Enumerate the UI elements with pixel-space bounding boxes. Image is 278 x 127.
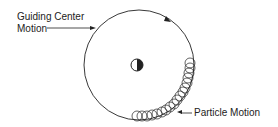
guiding-center-diagram: Guiding Center Motion Particle Motion <box>0 0 278 127</box>
particle-motion-arrowhead-icon <box>177 110 182 114</box>
center-half-circle-icon <box>131 59 143 71</box>
guiding-center-arrowhead-icon <box>90 26 96 30</box>
particle-motion-label: Particle Motion <box>194 107 260 119</box>
guiding-center-label-line1: Guiding Center <box>17 11 84 23</box>
guiding-center-label-line2: Motion <box>17 23 47 35</box>
